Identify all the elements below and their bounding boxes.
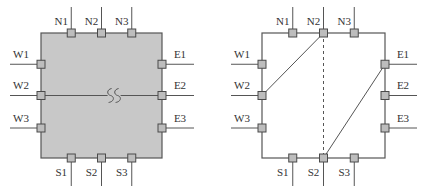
terminal-e1: E1 <box>162 48 194 64</box>
terminal-e3: E3 <box>385 112 417 128</box>
switch-block-right: N1N2N3W1W2W3E1E2E3S1S2S3 <box>231 7 417 186</box>
terminal-pad-w3 <box>37 124 45 132</box>
terminal-pad-s2 <box>320 154 328 162</box>
terminal-pad-e1 <box>158 60 166 68</box>
terminal-pad-s3 <box>128 154 136 162</box>
terminal-pad-s1 <box>67 154 75 162</box>
terminal-pad-e2 <box>158 92 166 100</box>
terminal-pad-n1 <box>67 29 75 37</box>
terminal-label: W1 <box>234 48 250 60</box>
terminal-pad-w2 <box>37 92 45 100</box>
terminal-label: E3 <box>174 112 187 124</box>
terminal-label: S1 <box>277 166 289 178</box>
terminal-pad-e1 <box>381 60 389 68</box>
terminal-e2: E2 <box>162 79 194 95</box>
terminal-pad-s3 <box>350 154 358 162</box>
terminal-pad-e2 <box>381 92 389 100</box>
terminal-w3: W3 <box>10 112 41 128</box>
terminal-label: W2 <box>234 79 250 91</box>
terminal-label: N2 <box>307 15 320 27</box>
terminal-pad-n3 <box>128 29 136 37</box>
terminal-pad-w2 <box>258 92 266 100</box>
terminal-pad-e3 <box>158 124 166 132</box>
terminal-label: W1 <box>13 48 29 60</box>
terminal-pad-n2 <box>98 29 106 37</box>
terminal-label: E1 <box>397 48 409 60</box>
terminal-label: E1 <box>174 48 186 60</box>
terminal-pad-w1 <box>258 60 266 68</box>
terminal-label: N1 <box>55 15 68 27</box>
terminal-pad-s2 <box>98 154 106 162</box>
terminal-pad-w3 <box>258 124 266 132</box>
terminal-label: E2 <box>174 79 186 91</box>
terminal-pad-n1 <box>289 29 297 37</box>
terminal-label: S3 <box>338 166 350 178</box>
terminal-w2: W2 <box>10 79 41 95</box>
terminal-label: N2 <box>85 15 98 27</box>
terminal-label: S3 <box>116 166 128 178</box>
terminal-label: N3 <box>338 15 352 27</box>
terminal-label: W3 <box>13 112 29 124</box>
terminal-label: S2 <box>308 166 320 178</box>
terminal-label: E3 <box>397 112 410 124</box>
terminal-pad-n2 <box>320 29 328 37</box>
switch-block-left: N1N2N3W1W2W3E1E2E3S1S2S3 <box>10 7 194 186</box>
terminal-e2: E2 <box>385 79 417 95</box>
terminal-label: S1 <box>55 166 67 178</box>
terminal-pad-e3 <box>381 124 389 132</box>
terminal-w3: W3 <box>231 112 262 128</box>
terminal-label: S2 <box>86 166 98 178</box>
terminal-e1: E1 <box>385 48 417 64</box>
terminal-w1: W1 <box>231 48 262 64</box>
terminal-label: N3 <box>115 15 129 27</box>
terminal-w1: W1 <box>10 48 41 64</box>
terminal-pad-n3 <box>350 29 358 37</box>
terminal-label: W3 <box>234 112 250 124</box>
terminal-pad-w1 <box>37 60 45 68</box>
terminal-pad-s1 <box>289 154 297 162</box>
switch-block-diagram: N1N2N3W1W2W3E1E2E3S1S2S3N1N2N3W1W2W3E1E2… <box>0 0 424 192</box>
terminal-label: W2 <box>13 79 29 91</box>
terminal-label: E2 <box>397 79 409 91</box>
terminal-e3: E3 <box>162 112 194 128</box>
terminal-w2: W2 <box>231 79 262 95</box>
terminal-label: N1 <box>276 15 289 27</box>
